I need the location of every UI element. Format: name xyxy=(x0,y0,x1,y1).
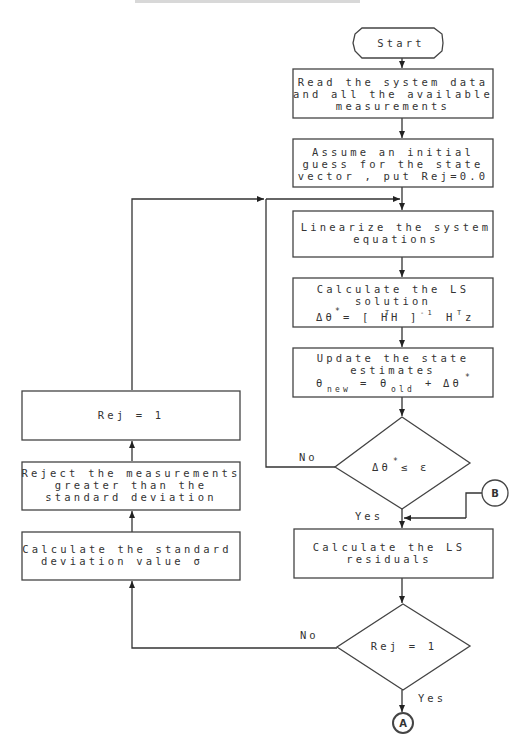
residuals-line1: Calculate the LS xyxy=(313,541,465,553)
rej-check-label: Rej = 1 xyxy=(371,640,438,652)
converge-star: * xyxy=(393,457,401,466)
rej-yes-label: Yes xyxy=(418,692,446,704)
eq-z: z xyxy=(465,311,475,323)
linearize-line1: Linearize the system xyxy=(301,221,491,233)
process-rej-set: Rej = 1 xyxy=(22,391,240,440)
converge-condition: ≤ ε xyxy=(401,461,430,473)
eq-sub-old: old xyxy=(391,385,415,394)
std-line1: Calculate the standard xyxy=(22,543,231,555)
process-ls-solution: Calculate the LS solution Δθ * = [ H T H… xyxy=(293,278,493,327)
process-reject-measurements: Reject the measurements greater than the… xyxy=(22,462,241,510)
edge-rejset-loop xyxy=(132,199,264,390)
reject-line1: Reject the measurements xyxy=(22,467,241,479)
eq-star-u: * xyxy=(465,373,473,382)
edge-b-connector xyxy=(466,493,482,518)
reject-line2: greater than the xyxy=(55,479,207,491)
eq-plus: + xyxy=(425,377,435,389)
eq-inverse: -1 xyxy=(420,309,435,317)
process-update-state: Update the state estimates θ new = θ old… xyxy=(293,348,493,397)
connector-b: B xyxy=(482,480,508,506)
process-read-data: Read the system data and all the availab… xyxy=(293,69,493,118)
read-line1: Read the system data xyxy=(298,76,488,88)
eq-theta-old: θ xyxy=(380,377,390,389)
converge-yes-label: Yes xyxy=(355,510,383,522)
rej-set-label: Rej = 1 xyxy=(98,409,165,421)
residuals-line2: residuals xyxy=(346,553,432,565)
ls-line1: Calculate the LS xyxy=(317,283,469,295)
decision-convergence: Δθ * ≤ ε xyxy=(335,417,470,509)
linearize-line2: equations xyxy=(353,233,439,245)
process-std-deviation: Calculate the standard deviation value σ xyxy=(22,532,240,580)
flowchart: Start Read the system data and all the a… xyxy=(0,0,519,747)
decision-rej-check: Rej = 1 xyxy=(337,604,470,690)
eq-equals: = xyxy=(360,377,370,389)
read-line2: and all the available xyxy=(293,88,493,100)
process-initial-guess: Assume an initial guess for the state ve… xyxy=(293,139,493,187)
process-residuals: Calculate the LS residuals xyxy=(294,529,493,578)
process-linearize: Linearize the system equations xyxy=(293,211,493,257)
eq-delta-theta-u: Δθ xyxy=(443,377,462,389)
connector-b-label: B xyxy=(491,488,499,499)
update-line1: Update the state xyxy=(317,352,469,364)
converge-no-label: No xyxy=(299,451,318,463)
assume-line3: vector , put Rej=0.0 xyxy=(298,170,488,182)
update-line2: estimates xyxy=(350,364,436,376)
eq-theta-new: θ xyxy=(316,377,326,389)
eq-h2: H xyxy=(446,311,456,323)
connector-a: A xyxy=(393,713,413,733)
read-line3: measurements xyxy=(336,100,450,112)
eq-star: * xyxy=(335,307,343,316)
rej-no-label: No xyxy=(300,629,319,641)
start-label: Start xyxy=(377,37,425,49)
eq-bracket-h: = [ H xyxy=(343,311,391,323)
eq-h-close: H ] xyxy=(391,311,420,323)
start-terminal: Start xyxy=(353,28,443,58)
std-line2: deviation value σ xyxy=(41,555,203,567)
eq-sub-new: new xyxy=(327,385,351,394)
converge-delta: Δθ xyxy=(372,461,391,473)
ls-line2: solution xyxy=(355,295,431,307)
assume-line1: Assume an initial xyxy=(312,146,474,158)
eq-delta-theta: Δθ xyxy=(316,311,335,323)
connector-a-label: A xyxy=(399,718,407,729)
eq-transpose-2: T xyxy=(457,309,464,317)
assume-line2: guess for the state xyxy=(303,158,484,170)
reject-line3: standard deviation xyxy=(45,491,216,503)
